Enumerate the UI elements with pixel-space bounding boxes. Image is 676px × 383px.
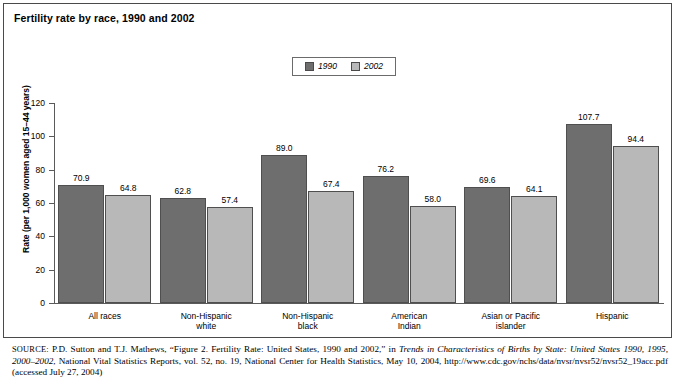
bar-value-label: 67.4 (302, 179, 360, 189)
legend-swatch-2002 (351, 62, 360, 71)
legend-swatch-1990 (305, 62, 314, 71)
legend-label-2002: 2002 (364, 62, 383, 71)
x-axis-line (54, 303, 664, 304)
source-prefix: SOURCE: (12, 345, 49, 354)
legend-item-1990: 1990 (305, 62, 337, 71)
y-axis-tick-label: 0 (0, 298, 45, 308)
legend-item-2002: 2002 (351, 62, 383, 71)
bar-value-label: 64.8 (99, 183, 157, 193)
source-note: SOURCE: P.D. Sutton and T.J. Mathews, “F… (12, 344, 668, 379)
bar-1990-2 (160, 198, 206, 303)
bar-value-label: 107.7 (560, 112, 618, 122)
source-text-1: P.D. Sutton and T.J. Mathews, “Figure 2.… (49, 344, 399, 354)
bar-2002-5 (511, 196, 557, 303)
plot-area: 70.964.862.857.489.067.476.258.069.664.1… (54, 103, 663, 303)
source-text-2: , National Vital Statistics Reports, vol… (12, 356, 668, 378)
bar-2002-6 (613, 146, 659, 303)
bar-value-label: 64.1 (505, 184, 563, 194)
y-axis-title: Rate (per 1,000 women aged 15–44 years) (21, 69, 31, 269)
bar-value-label: 94.4 (607, 134, 665, 144)
bar-1990-5 (464, 187, 510, 303)
chart-legend: 1990 2002 (292, 57, 396, 76)
x-axis-label-6: Hispanic (552, 311, 674, 321)
y-axis-tick (49, 303, 55, 304)
bar-value-label: 58.0 (404, 194, 462, 204)
bar-1990-4 (363, 176, 409, 303)
bar-1990-6 (566, 124, 612, 304)
bar-1990-1 (58, 185, 104, 303)
bar-2002-4 (410, 206, 456, 303)
legend-label-1990: 1990 (318, 62, 337, 71)
page-title: Fertility rate by race, 1990 and 2002 (14, 12, 195, 24)
bar-1990-3 (261, 155, 307, 303)
bar-2002-1 (105, 195, 151, 303)
bar-2002-2 (207, 207, 253, 303)
bar-value-label: 57.4 (201, 195, 259, 205)
bar-2002-3 (308, 191, 354, 303)
bar-value-label: 70.9 (52, 173, 110, 183)
bar-value-label: 89.0 (255, 143, 313, 153)
bar-value-label: 76.2 (357, 164, 415, 174)
